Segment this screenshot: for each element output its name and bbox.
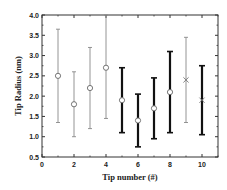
circle-marker-icon [151,106,156,111]
x-tick-label: 2 [72,161,76,168]
y-axis-title: Tip Radius (nm) [13,56,23,116]
series-gray-cross [183,37,188,122]
x-tick-label: 8 [168,161,172,168]
plot-frame [42,15,218,157]
x-tick-label: 4 [104,161,108,168]
y-tick-label: 2.0 [29,93,39,100]
circle-marker-icon [103,65,108,70]
y-tick-label: 1.0 [29,133,39,140]
circle-marker-icon [87,85,92,90]
data-series [55,15,205,147]
x-axis-title: Tip number (#) [102,172,158,182]
y-tick-label: 0.5 [29,154,39,161]
circle-marker-icon [167,89,172,94]
y-tick-label: 3.0 [29,52,39,59]
series-gray-circle [55,15,108,137]
plot-border [42,15,218,157]
y-tick-label: 2.5 [29,72,39,79]
series-black-cross [199,66,205,135]
y-tick-label: 3.5 [29,32,39,39]
circle-marker-icon [55,73,60,78]
error-bar-chart: 0.51.01.52.02.53.03.54.0 0246810 Tip num… [0,0,227,190]
series-black-circle [119,52,173,147]
y-tick-label: 1.5 [29,113,39,120]
x-tick-label: 0 [40,161,44,168]
x-tick-label: 10 [198,161,206,168]
x-axis: 0246810 [40,15,218,168]
circle-marker-icon [119,98,124,103]
x-tick-label: 6 [136,161,140,168]
y-tick-label: 4.0 [29,12,39,19]
circle-marker-icon [135,118,140,123]
circle-marker-icon [71,102,76,107]
